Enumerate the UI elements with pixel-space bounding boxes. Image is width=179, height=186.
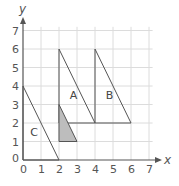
y-tick-label: 5 [12,62,19,75]
x-tick-label: 5 [110,163,117,176]
x-tick-label: 2 [56,163,63,176]
y-axis-label: y [18,2,27,16]
y-tick-label: 3 [12,99,19,112]
triangle-label-c: C [30,126,38,139]
x-tick-label: 4 [92,163,99,176]
x-tick-label: 7 [146,163,153,176]
x-tick-label: 1 [38,163,45,176]
x-axis-label: x [163,153,172,167]
y-tick-label: 2 [12,117,19,130]
triangle-label-b: B [106,89,114,102]
x-tick-label: 6 [128,163,135,176]
x-tick-label: 0 [20,163,27,176]
y-tick-label: 7 [12,25,19,38]
x-axis-arrow-icon [155,157,162,163]
tick-labels: 0123456712345670 [12,25,153,177]
coordinate-grid: ABC 0123456712345670 x y [0,0,179,186]
gridlines [23,27,153,160]
y-axis-arrow-icon [20,17,26,24]
origin-label: 0 [12,152,19,165]
y-tick-label: 1 [12,136,19,149]
triangle-label-a: A [70,89,78,102]
x-tick-label: 3 [74,163,81,176]
y-tick-label: 4 [12,80,19,93]
y-tick-label: 6 [12,43,19,56]
